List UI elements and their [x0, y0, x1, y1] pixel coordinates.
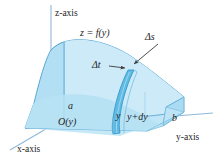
diagram-canvas: z-axis y-axis x-axis z = f(y) Δs Δt a b …: [0, 0, 221, 157]
solid-body: [25, 40, 184, 136]
figure-root: z-axis y-axis x-axis z = f(y) Δs Δt a b …: [0, 0, 221, 157]
cross-section-label: O(y): [58, 116, 77, 128]
x-axis-label: x-axis: [17, 144, 41, 154]
label-y-plus-dy: y+dy: [126, 111, 148, 122]
label-b: b: [172, 112, 177, 123]
z-axis-label: z-axis: [55, 8, 78, 18]
delta-t-label: Δt: [91, 59, 101, 70]
label-a: a: [68, 100, 73, 111]
y-axis-label: y-axis: [176, 132, 200, 142]
label-y: y: [115, 110, 121, 121]
delta-s-label: Δs: [144, 31, 155, 42]
delta-s-leader: [134, 44, 158, 64]
surface-equation-label: z = f(y): [79, 27, 110, 39]
